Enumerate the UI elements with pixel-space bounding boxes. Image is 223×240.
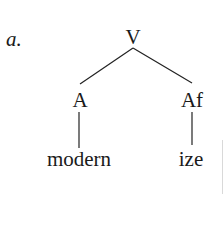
tree-leaf-ize: ize	[179, 149, 203, 170]
page-edge-shadow	[222, 140, 223, 194]
branch-v-to-af	[133, 48, 192, 83]
tree-node-af: Af	[181, 90, 203, 111]
tree-leaf-modern: modern	[47, 149, 111, 170]
tree-node-root: V	[125, 27, 140, 48]
tree-node-a: A	[72, 90, 87, 111]
branch-v-to-a	[80, 48, 133, 84]
